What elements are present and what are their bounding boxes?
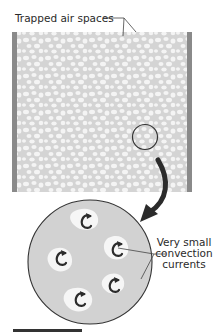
right-wall — [187, 32, 192, 192]
trapped-air-spaces-label: Trapped air spaces — [15, 13, 114, 24]
convection-currents-label: Very small convection currents — [155, 237, 213, 270]
left-wall — [12, 32, 17, 192]
magnified-view — [28, 200, 152, 324]
insulation-diagram: Trapped air spaces Very small convection… — [0, 0, 215, 332]
convection-label-line3: currents — [155, 259, 213, 270]
